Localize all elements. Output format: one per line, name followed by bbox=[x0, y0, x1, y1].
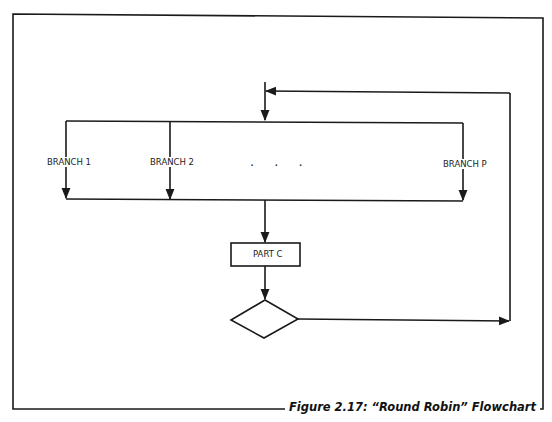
round-robin-flowchart bbox=[0, 0, 552, 422]
return-top-line bbox=[266, 91, 510, 93]
branch-p-label: BRANCH P bbox=[442, 159, 488, 169]
fork-bar bbox=[66, 121, 463, 123]
ellipsis: . . . bbox=[250, 154, 311, 169]
decision-exit-line bbox=[298, 319, 509, 321]
branch-1-label: BRANCH 1 bbox=[46, 157, 92, 167]
process-box-label: PART C bbox=[252, 249, 284, 259]
decision-diamond bbox=[231, 300, 298, 338]
figure-frame bbox=[13, 14, 543, 409]
branch-2-label: BRANCH 2 bbox=[149, 157, 195, 167]
figure-caption: Figure 2.17: “Round Robin” Flowchart bbox=[285, 400, 540, 414]
